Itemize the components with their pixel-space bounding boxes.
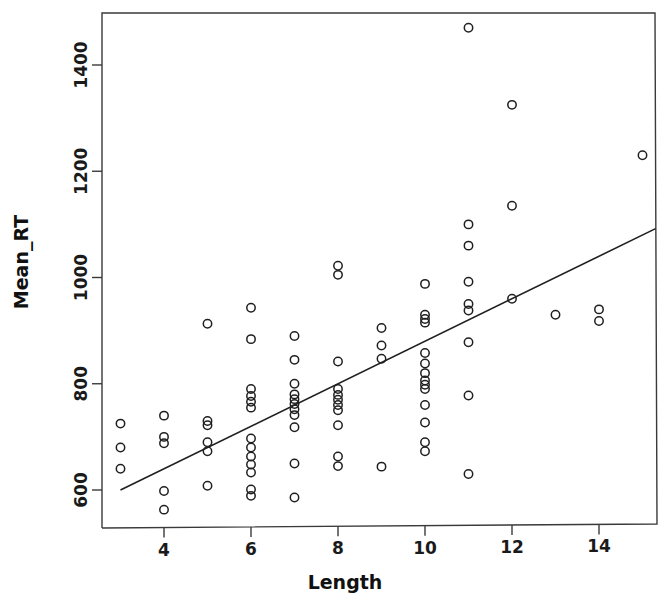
y-axis-title: Mean_RT — [10, 215, 33, 309]
plot-background — [0, 0, 667, 604]
y-tick-label-1000: 1000 — [71, 254, 91, 301]
y-tick-label-800: 800 — [71, 366, 91, 402]
scatter-plot-figure: 600800100012001400 468101214 Length Mean… — [0, 0, 667, 604]
x-tick-label-12: 12 — [500, 537, 524, 557]
x-tick-label-8: 8 — [332, 538, 344, 558]
plot-canvas: 600800100012001400 468101214 Length Mean… — [0, 0, 667, 604]
x-tick-label-4: 4 — [158, 540, 170, 560]
x-tick-label-6: 6 — [245, 539, 257, 559]
x-tick-label-14: 14 — [587, 536, 611, 556]
y-tick-label-1200: 1200 — [71, 147, 91, 194]
y-tick-label-1400: 1400 — [71, 41, 91, 88]
x-axis-title: Length — [308, 571, 383, 593]
x-tick-label-10: 10 — [413, 538, 437, 558]
y-tick-label-600: 600 — [71, 472, 91, 508]
